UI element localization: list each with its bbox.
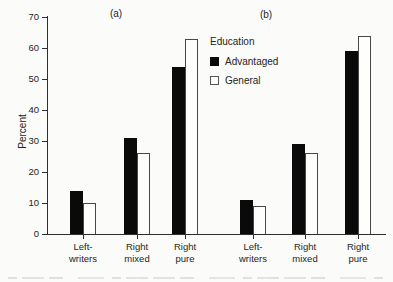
y-axis-tick	[42, 17, 47, 18]
y-axis-tick-label: 70	[0, 11, 39, 23]
y-axis-line	[47, 16, 48, 235]
x-axis-tick-label: Right pure	[153, 241, 217, 265]
general-swatch-icon	[210, 76, 219, 85]
bar-advantaged	[172, 67, 185, 234]
y-axis-tick	[42, 48, 47, 49]
y-axis-tick	[42, 234, 47, 235]
bar-general	[305, 153, 318, 234]
y-axis-tick	[42, 110, 47, 111]
x-axis-tick	[185, 235, 186, 239]
legend-item-label: General	[225, 75, 261, 86]
y-axis-tick-label: 0	[0, 228, 39, 240]
legend: Education Advantaged General	[210, 36, 278, 86]
legend-title: Education	[210, 36, 278, 48]
bar-general	[83, 203, 96, 234]
legend-item-label: Advantaged	[225, 56, 278, 67]
plot-area: Percent (a) (b) Education Advantaged Gen…	[0, 0, 393, 282]
bar-advantaged	[292, 144, 305, 234]
y-axis-tick-label: 60	[0, 42, 39, 54]
x-axis-tick	[137, 235, 138, 239]
cropped-caption-remnant	[8, 276, 387, 280]
y-axis-tick-label: 20	[0, 166, 39, 178]
panel-b-label: (b)	[246, 9, 286, 20]
bar-advantaged	[70, 191, 83, 234]
bar-general	[185, 39, 198, 234]
panel-a-label: (a)	[96, 8, 136, 19]
x-axis-tick-label: Right pure	[326, 241, 390, 265]
x-axis-line	[47, 234, 386, 235]
x-axis-tick	[305, 235, 306, 239]
y-axis-tick-label: 30	[0, 135, 39, 147]
x-axis-tick	[253, 235, 254, 239]
legend-item-general: General	[210, 75, 278, 86]
bar-advantaged	[124, 138, 137, 234]
bar-advantaged	[240, 200, 253, 234]
bar-chart-figure: Percent (a) (b) Education Advantaged Gen…	[0, 0, 393, 282]
bar-advantaged	[345, 51, 358, 234]
x-axis-tick	[83, 235, 84, 239]
y-axis-tick-label: 40	[0, 104, 39, 116]
legend-item-advantaged: Advantaged	[210, 56, 278, 67]
bar-general	[358, 36, 371, 234]
y-axis-tick	[42, 203, 47, 204]
y-axis-tick	[42, 172, 47, 173]
bar-general	[253, 206, 266, 234]
y-axis-tick	[42, 141, 47, 142]
y-axis-tick-label: 10	[0, 197, 39, 209]
bar-general	[137, 153, 150, 234]
x-axis-tick	[358, 235, 359, 239]
y-axis-tick	[42, 79, 47, 80]
advantaged-swatch-icon	[210, 57, 219, 66]
y-axis-tick-label: 50	[0, 73, 39, 85]
